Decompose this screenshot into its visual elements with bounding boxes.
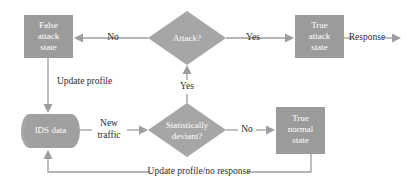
true-normal-state-line-1: True (292, 113, 309, 123)
ids-data-label: IDS data (35, 125, 67, 135)
false-attack-state-line-2: attack (38, 31, 60, 41)
node-true-normal-state[interactable]: True normal state (276, 107, 325, 154)
flowchart-canvas: False attack state Attack? True attack s… (0, 0, 409, 188)
edge-label-new-traffic-line-1: New (100, 118, 118, 128)
edge-label-update-profile-no-response: Update profile/no response (148, 166, 251, 176)
false-attack-state-line-3: state (40, 42, 57, 52)
deviant-decision-line-2: deviant? (172, 131, 203, 141)
edge-attack-to-true-attack (226, 34, 294, 43)
true-normal-state-line-2: normal (288, 124, 314, 134)
true-attack-state-line-3: state (311, 42, 328, 52)
flowchart-svg: False attack state Attack? True attack s… (0, 0, 409, 188)
true-attack-state-line-1: True (311, 20, 328, 30)
deviant-decision-line-1: Statistically (166, 120, 209, 130)
node-ids-data[interactable]: IDS data (21, 114, 80, 148)
edge-label-deviant-no: No (241, 124, 253, 134)
edge-label-deviant-yes: Yes (180, 81, 194, 91)
node-false-attack-state[interactable]: False attack state (24, 15, 73, 58)
attack-decision-label: Attack? (173, 33, 201, 43)
true-attack-state-line-2: attack (309, 31, 331, 41)
true-normal-state-line-3: state (292, 135, 309, 145)
node-statistically-deviant-decision[interactable]: Statistically deviant? (148, 103, 226, 157)
node-attack-decision[interactable]: Attack? (148, 11, 226, 65)
edge-label-update-profile: Update profile (57, 76, 112, 86)
false-attack-state-line-1: False (39, 20, 58, 30)
edge-label-attack-no: No (107, 32, 119, 42)
edge-label-response: Response (349, 32, 385, 42)
node-true-attack-state[interactable]: True attack state (295, 15, 344, 58)
edge-label-attack-yes: Yes (246, 32, 260, 42)
edge-label-new-traffic-line-2: traffic (97, 130, 120, 140)
edge-false-attack-to-ids-data (44, 58, 53, 113)
